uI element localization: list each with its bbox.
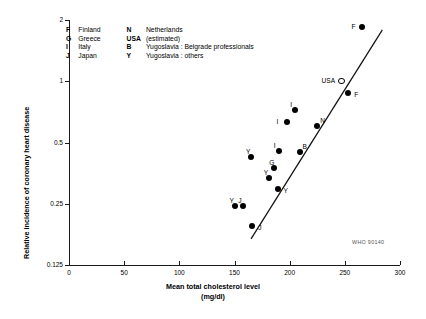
data-point-label: J	[258, 224, 261, 231]
legend-label: (estimated)	[146, 35, 254, 44]
source-credit: WHO 90140	[352, 239, 384, 245]
data-point-label: USA	[322, 77, 336, 84]
legend-row: FFinlandNNetherlands	[66, 26, 254, 35]
legend-key: USA	[127, 35, 146, 44]
data-point-label: Y	[230, 197, 234, 204]
legend-label: Netherlands	[146, 26, 254, 35]
data-point-label: N	[320, 117, 325, 124]
data-point-j	[249, 223, 255, 229]
legend-row: IItalyBYugoslavia : Belgrade professiona…	[66, 43, 254, 52]
data-point-label: F	[354, 91, 358, 98]
data-point-label: Y	[284, 187, 288, 194]
legend-row: GGreeceUSA(estimated)	[66, 35, 254, 44]
data-point-label: F	[351, 23, 355, 30]
data-point-i	[276, 148, 282, 154]
data-point-label: I	[274, 142, 276, 149]
data-point-usa	[338, 78, 344, 84]
data-point-label: B	[303, 143, 307, 150]
legend: FFinlandNNetherlandsGGreeceUSA(estimated…	[66, 26, 254, 60]
legend-key: I	[66, 43, 78, 52]
data-point-y	[275, 186, 281, 192]
legend-label: Finland	[78, 26, 100, 35]
data-point-f	[345, 90, 351, 96]
x-axis-title-units: (mg/dl)	[201, 292, 225, 301]
x-axis-title: Mean total cholesterol level (mg/dl)	[0, 282, 426, 302]
legend-key: Y	[127, 52, 146, 61]
legend-label: Yugoslavia : others	[146, 52, 254, 61]
legend-label: Japan	[78, 52, 100, 61]
legend-spacer	[101, 43, 127, 52]
legend-spacer	[101, 26, 127, 35]
data-point-label: Y	[264, 169, 268, 176]
legend-key: J	[66, 52, 78, 61]
legend-label: Yugoslavia : Belgrade professionals	[146, 43, 254, 52]
data-point-label: J	[238, 197, 241, 204]
legend-spacer	[101, 35, 127, 44]
legend-key: N	[127, 26, 146, 35]
legend-label: Italy	[78, 43, 100, 52]
chart-figure: Relative incidence of coronary heart dis…	[0, 0, 426, 319]
data-point-label: I	[290, 101, 292, 108]
legend-key: G	[66, 35, 78, 44]
data-point-label: G	[269, 159, 274, 166]
legend-label: Greece	[78, 35, 100, 44]
legend-table: FFinlandNNetherlandsGGreeceUSA(estimated…	[66, 26, 254, 60]
legend-key: F	[66, 26, 78, 35]
data-point-label: I	[276, 118, 278, 125]
data-point-label: Y	[246, 148, 250, 155]
legend-row: JJapanYYugoslavia : others	[66, 52, 254, 61]
legend-spacer	[101, 52, 127, 61]
x-axis-title-text: Mean total cholesterol level	[166, 282, 260, 291]
legend-key: B	[127, 43, 146, 52]
